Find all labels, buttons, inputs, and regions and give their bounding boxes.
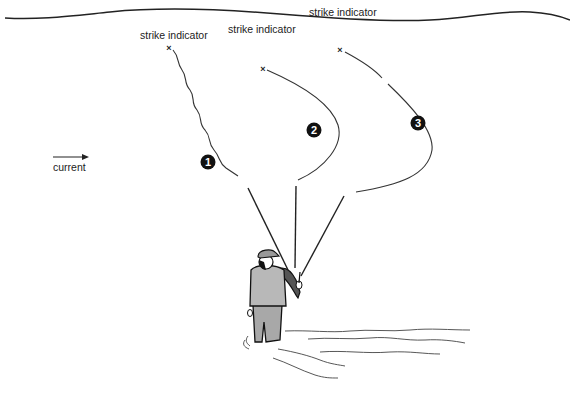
- ripple: [246, 336, 250, 346]
- number-2: 2: [311, 124, 317, 136]
- curved-line-2: [267, 70, 339, 180]
- current-indicator: current: [53, 154, 89, 173]
- ripple: [320, 351, 440, 354]
- drift-3: strike indicator × 3: [301, 6, 432, 276]
- vest: [250, 266, 286, 307]
- strike-indicator-marker-1: ×: [166, 43, 171, 53]
- fly-line-2: [295, 186, 296, 268]
- current-label: current: [53, 161, 86, 173]
- ripple: [273, 358, 338, 378]
- angler-figure: [248, 250, 303, 342]
- number-3: 3: [415, 117, 421, 129]
- fly-fishing-diagram: current strike indicator × 1 strike indi…: [0, 0, 570, 393]
- waders: [253, 305, 282, 342]
- fly-line-3: [301, 196, 344, 276]
- strike-indicator-label-1: strike indicator: [140, 29, 208, 41]
- ripple: [308, 338, 465, 343]
- drift-1: strike indicator × 1: [140, 29, 289, 272]
- far-bank-line: [5, 9, 570, 21]
- left-hand: [248, 310, 253, 317]
- number-1: 1: [205, 156, 211, 168]
- cap: [258, 250, 279, 258]
- ripple: [285, 329, 470, 332]
- drift-2: strike indicator × 2: [228, 23, 339, 268]
- strike-indicator-label-3: strike indicator: [309, 6, 377, 18]
- strike-indicator-marker-3: ×: [337, 45, 342, 55]
- strike-indicator-marker-2: ×: [260, 64, 265, 74]
- strike-indicator-label-2: strike indicator: [228, 23, 296, 35]
- arrow-head-icon: [82, 154, 89, 160]
